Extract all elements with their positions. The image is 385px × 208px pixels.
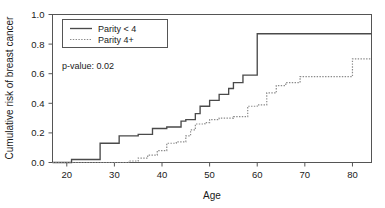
y-tick-label-0.2: 0.2 [31,127,44,138]
x-tick-label-20: 20 [61,169,72,180]
legend-label-1: Parity 4+ [98,35,134,45]
x-axis-tick-labels: 20304050607080 [61,169,357,180]
y-tick-label-0.6: 0.6 [31,68,44,79]
x-tick-label-40: 40 [157,169,168,180]
y-tick-label-0.0: 0.0 [31,157,44,168]
y-tick-label-0.4: 0.4 [31,98,44,109]
x-axis-title: Age [203,190,221,201]
pvalue-annotation: p-value: 0.02 [62,61,114,71]
x-tick-label-60: 60 [252,169,263,180]
y-tick-label-0.8: 0.8 [31,39,44,50]
chart-canvas: 20304050607080 0.00.20.40.60.81.0 Age Cu… [0,0,385,208]
x-tick-label-50: 50 [204,169,215,180]
chart-figure: 20304050607080 0.00.20.40.60.81.0 Age Cu… [0,0,385,208]
y-tick-label-1.0: 1.0 [31,9,44,20]
x-tick-label-70: 70 [300,169,311,180]
legend-label-0: Parity < 4 [98,24,136,34]
x-tick-label-30: 30 [109,169,120,180]
y-axis-title: Cumulative risk of breast cancer [4,16,15,160]
series-line-parity-lt-4 [53,34,372,163]
chart-legend: Parity < 4 Parity 4+ [63,20,168,48]
y-axis-tick-labels: 0.00.20.40.60.81.0 [31,9,44,168]
y-axis-ticks [49,15,53,163]
x-tick-label-80: 80 [347,169,358,180]
